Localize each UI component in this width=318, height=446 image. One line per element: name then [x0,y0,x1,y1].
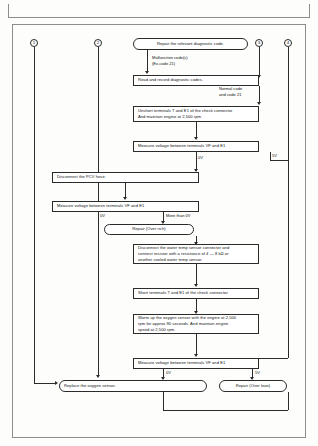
edge-warmup-to-measure3 [196,334,197,355]
edge-label-0v-b-line-1: 0V [100,213,105,219]
edge-unshort-to-measure1 [196,122,197,138]
edge-label-normal-code-line-1: Normal code [219,86,242,92]
reference-marker-3: 3 [255,39,263,47]
rail-line-4 [288,47,289,358]
edge-read-to-unshort-arrow [257,102,261,105]
reference-marker-1: 1 [30,39,38,47]
node-repair-over-lean: Repair (Over lean) [219,380,287,392]
rail-connector-1 [34,383,56,384]
edge-label-malfunction-code-line-2: (Ex.code 21) [152,61,188,67]
edge-into-water-temp-arrow [194,242,198,245]
edge-repair-to-read [147,50,148,72]
node-disconnect-pcv-hose-line-1: Disconnect the PCV hose. [57,174,194,180]
node-read-record-codes: Read and record diagnostic codes. [133,75,259,86]
edge-measure1-0v [196,152,197,170]
node-repair-relevant-code: Repair the relevant diagnostic code. [133,38,248,50]
edge-label-5v-a-line-1: 5V [272,153,277,159]
edge-label-more-than-0v: More than 0V [166,213,191,219]
edge-label-5v-c: 5V [255,370,260,376]
node-repair-over-lean-line-1: Repair (Over lean) [236,383,271,389]
page-frame-top [8,4,310,18]
node-unshort-terminals: Unshort terminals T and E1 of the check … [133,106,259,122]
node-read-record-codes-line-1: Read and record diagnostic codes. [138,77,254,83]
node-measure-voltage-2: Measure voltage between terminals VF and… [52,201,199,212]
edge-label-0v-a-line-1: 0V [198,155,203,161]
bottom-return-hline [163,410,288,411]
bottom-return-vline [163,392,164,410]
node-disconnect-water-temp-sensor: Disconnect the water temp sensor connect… [133,244,259,264]
edge-repair-to-read-arrow [145,71,149,74]
edge-label-normal-code: Normal code and code 21 [219,86,242,97]
rail-line-3 [259,47,260,76]
node-disconnect-pcv-hose: Disconnect the PCV hose. [52,172,199,183]
rail-arrow-1 [55,381,58,385]
node-short-terminals-line-1: Short terminals T and E1 of the check co… [138,290,254,296]
edge-label-0v-c-line-1: 0V [166,370,171,376]
edge-label-malfunction-code: Malfunction code(s) (Ex.code 21) [152,55,188,66]
edge-measure1-5v [270,152,271,160]
reference-marker-2: 2 [94,39,102,47]
node-measure-voltage-2-line-1: Measure voltage between terminals VF and… [57,203,194,209]
edge-read-to-unshort [259,86,260,103]
edge-watertemp-to-short-arrow [194,284,198,287]
edge-label-normal-code-line-2: and code 21 [219,92,242,98]
node-warm-up-oxygen-sensor: Warm up the oxygen sensor with the engin… [133,314,259,334]
rail-connector-4 [259,358,288,359]
edge-label-malfunction-code-line-1: Malfunction code(s) [152,55,188,61]
edge-label-more-than-0v-line-1: More than 0V [166,213,191,219]
flowchart-page: 1 2 3 4 Repair the relevant diagnostic c… [0,0,318,446]
node-warm-up-oxygen-sensor-line-3: speed at 2,500 rpm. [138,327,254,333]
edge-pcv-to-measure2 [125,183,126,198]
edge-label-0v-a: 0V [198,155,203,161]
node-replace-oxygen-sensor-line-1: Replace the oxygen sensor. [64,383,202,389]
node-short-terminals: Short terminals T and E1 of the check co… [133,288,259,299]
rail-line-1 [34,47,35,383]
node-unshort-terminals-line-2: And maintain engine at 2,500 rpm. [138,114,254,120]
edge-unshort-to-measure1-arrow [194,137,198,140]
node-measure-voltage-1: Measure voltage between terminals VF and… [133,141,259,152]
edge-measure2-0v [98,212,99,220]
bottom-return-right-vline [288,392,289,410]
node-measure-voltage-3-line-1: Measure voltage between terminals VF and… [138,360,254,366]
edge-watertemp-to-short [196,264,197,285]
edge-label-5v-a: 5V [272,153,277,159]
node-disconnect-water-temp-sensor-line-3: another cooled water temp sensor. [138,257,254,263]
node-measure-voltage-3: Measure voltage between terminals VF and… [133,358,259,369]
node-repair-relevant-code-line-1: Repair the relevant diagnostic code. [157,41,224,47]
node-measure-voltage-1-line-1: Measure voltage between terminals VF and… [138,143,254,149]
edge-label-0v-c: 0V [166,370,171,376]
edge-pcv-to-measure2-arrow [123,197,127,200]
rail-arrow-2 [96,375,100,378]
edge-measure1-5v-join [270,160,288,161]
node-repair-over-rich: Repair (Over rich) [104,224,194,235]
edge-warmup-to-measure3-arrow [194,354,198,357]
edge-label-0v-b: 0V [100,213,105,219]
reference-marker-4: 4 [284,39,292,47]
edge-label-5v-c-line-1: 5V [255,370,260,376]
node-repair-over-rich-line-1: Repair (Over rich) [132,226,165,232]
node-replace-oxygen-sensor: Replace the oxygen sensor. [59,380,207,392]
